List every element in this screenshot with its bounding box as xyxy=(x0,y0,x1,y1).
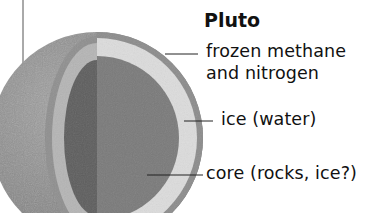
label-crust-line2: and nitrogen xyxy=(206,63,319,84)
diagram-title: Pluto xyxy=(204,9,260,31)
label-crust-line1: frozen methane xyxy=(206,41,346,62)
label-core: core (rocks, ice?) xyxy=(206,163,357,184)
pluto-diagram: Pluto frozen methane and nitrogen ice (w… xyxy=(0,0,366,213)
pluto-sphere xyxy=(0,32,203,213)
label-ice-water: ice (water) xyxy=(221,109,316,130)
